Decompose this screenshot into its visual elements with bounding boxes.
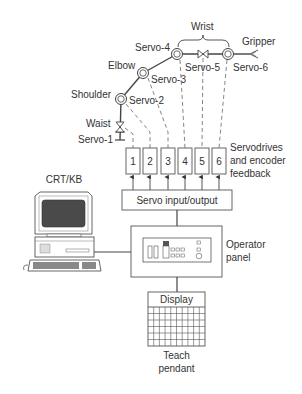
servodrive-5: 5 bbox=[195, 148, 209, 174]
servodrive-6: 6 bbox=[212, 148, 226, 174]
waist-joint-icon bbox=[116, 122, 124, 132]
servodrives-label: and encoder bbox=[230, 155, 286, 166]
teach-pendant-label: pendant bbox=[158, 363, 194, 374]
svg-text:2: 2 bbox=[147, 156, 153, 167]
wrist-brace bbox=[178, 35, 229, 47]
servodrives-label: feedback bbox=[230, 168, 272, 179]
servo-4-joint-icon bbox=[172, 49, 183, 60]
operator-panel-label: panel bbox=[226, 252, 250, 263]
crt-kb-label: CRT/KB bbox=[46, 174, 83, 185]
servodrive-4: 4 bbox=[178, 148, 192, 174]
servo-5-joint-icon bbox=[198, 50, 208, 58]
servo-2-label: Servo-2 bbox=[129, 95, 164, 106]
operator-panel-label: Operator bbox=[226, 239, 266, 250]
svg-text:1: 1 bbox=[130, 156, 136, 167]
wrist-label: Wrist bbox=[191, 21, 214, 32]
gripper-label: Gripper bbox=[242, 36, 276, 47]
teach-pendant-label: Teach bbox=[163, 350, 190, 361]
servo-io-box: Servo input/output bbox=[122, 190, 232, 210]
servo-6-joint-icon bbox=[223, 49, 234, 60]
robot-control-diagram: Wrist Gripper Servo-4 Servo-5 Servo-6 El… bbox=[0, 0, 302, 394]
display-label: Display bbox=[160, 294, 193, 305]
shoulder-label: Shoulder bbox=[71, 89, 112, 100]
waist-label: Waist bbox=[86, 118, 111, 129]
svg-text:6: 6 bbox=[216, 156, 222, 167]
svg-text:Servo input/output: Servo input/output bbox=[136, 195, 217, 206]
servo-6-label: Servo-6 bbox=[233, 62, 268, 73]
servo-4-label: Servo-4 bbox=[135, 42, 170, 53]
computer-icon: CRT/KB bbox=[24, 174, 102, 271]
svg-text:5: 5 bbox=[199, 156, 205, 167]
shoulder-joint-icon bbox=[116, 94, 127, 105]
gripper-icon bbox=[250, 50, 258, 58]
servodrive-1: 1 bbox=[126, 148, 140, 174]
operator-panel: Operator panel bbox=[131, 226, 266, 277]
svg-text:4: 4 bbox=[182, 156, 188, 167]
servodrive-2: 2 bbox=[143, 148, 157, 174]
servodrives: 1 2 3 4 5 6 Servodrives and encoder feed… bbox=[126, 142, 286, 179]
elbow-joint-icon bbox=[138, 68, 149, 79]
elbow-label: Elbow bbox=[108, 60, 136, 71]
robot-arm: Wrist Gripper Servo-4 Servo-5 Servo-6 El… bbox=[71, 21, 276, 145]
servodrives-label: Servodrives bbox=[230, 142, 283, 153]
io-arrows bbox=[133, 177, 219, 190]
servodrive-3: 3 bbox=[161, 148, 175, 174]
servo-1-label: Servo-1 bbox=[78, 134, 113, 145]
teach-pendant: Display Teach pendant bbox=[148, 292, 205, 374]
svg-text:3: 3 bbox=[165, 156, 171, 167]
